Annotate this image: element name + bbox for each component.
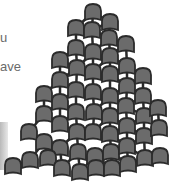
bell-node-icon	[119, 138, 135, 154]
bell-node-icon	[85, 64, 101, 80]
bell-node-icon	[101, 30, 117, 46]
bell-node-icon	[86, 104, 102, 120]
bell-node-icon	[84, 22, 100, 38]
bell-node-icon	[137, 150, 153, 166]
bell-node-icon	[102, 126, 118, 142]
bell-node-icon	[68, 82, 84, 98]
bell-node-icon	[68, 20, 84, 36]
bell-node-icon	[54, 160, 70, 176]
bell-node-icon	[103, 144, 119, 160]
bell-node-icon	[88, 160, 104, 176]
bell-node-icon	[85, 84, 101, 100]
bell-node-icon	[118, 36, 134, 52]
bell-node-icon	[70, 144, 86, 160]
bell-node-icon	[135, 68, 151, 84]
bell-node-icon	[36, 134, 52, 150]
bell-node-icon	[102, 48, 118, 64]
bell-node-icon	[68, 104, 84, 120]
bell-node-icon	[150, 100, 166, 116]
bell-node-icon	[52, 52, 68, 68]
bell-node-icon	[36, 106, 52, 122]
bell-node-icon	[69, 60, 85, 76]
bell-node-icon	[68, 40, 84, 56]
bell-node-icon	[36, 86, 52, 102]
bell-node-icon	[85, 4, 101, 20]
bell-node-icon	[40, 150, 56, 166]
bell-node-icon	[119, 78, 135, 94]
node-pyramid-diagram	[0, 0, 176, 183]
bell-node-icon	[118, 98, 134, 114]
bell-node-icon	[85, 44, 101, 60]
bell-node-icon	[52, 94, 68, 110]
bell-node-icon	[102, 14, 118, 30]
bell-node-icon	[22, 152, 38, 168]
bell-node-icon	[102, 88, 118, 104]
bell-node-icon	[152, 148, 168, 164]
bell-node-icon	[21, 124, 37, 140]
bell-node-icon	[85, 124, 101, 140]
bell-node-icon	[120, 156, 136, 172]
bell-node-icon	[136, 128, 152, 144]
bell-node-icon	[102, 108, 118, 124]
bell-node-icon	[72, 164, 88, 180]
bell-node-icon	[102, 66, 118, 82]
bell-node-icon	[69, 124, 85, 140]
bell-node-icon	[135, 88, 151, 104]
bell-node-icon	[119, 118, 135, 134]
bell-node-icon	[52, 72, 68, 88]
bell-node-icon	[5, 158, 21, 174]
bell-node-icon	[104, 160, 120, 176]
bell-node-icon	[119, 58, 135, 74]
bell-node-icon	[52, 116, 68, 132]
bell-node-icon	[151, 120, 167, 136]
